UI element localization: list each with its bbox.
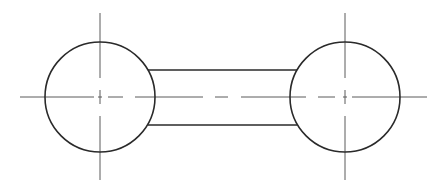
technical-drawing — [0, 0, 441, 180]
drawing-canvas — [0, 0, 441, 180]
